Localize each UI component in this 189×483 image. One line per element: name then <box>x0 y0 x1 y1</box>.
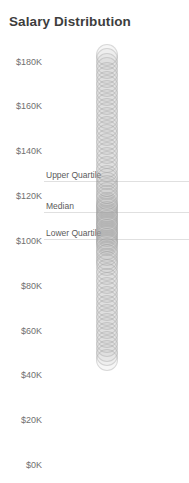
reference-line-label: Median <box>46 201 76 211</box>
dot-plot-column <box>96 0 120 483</box>
y-axis-tick-label: $60K <box>21 326 42 336</box>
reference-line-label: Lower Quartile <box>46 228 103 238</box>
y-axis-tick-label: $120K <box>16 191 42 201</box>
plot-area: $180K$160K$140K$120K$100K$80K$60K$40K$20… <box>0 0 189 483</box>
y-axis-tick-label: $20K <box>21 415 42 425</box>
salary-distribution-chart: Salary Distribution $180K$160K$140K$120K… <box>0 0 189 483</box>
y-axis-tick-label: $0K <box>26 460 42 470</box>
y-axis-tick-label: $180K <box>16 57 42 67</box>
data-point-dot <box>96 349 118 371</box>
y-axis-tick-label: $80K <box>21 281 42 291</box>
y-axis-tick-label: $100K <box>16 236 42 246</box>
y-axis-tick-label: $40K <box>21 370 42 380</box>
reference-line-label: Upper Quartile <box>46 170 103 180</box>
y-axis-tick-label: $160K <box>16 101 42 111</box>
y-axis-tick-label: $140K <box>16 146 42 156</box>
